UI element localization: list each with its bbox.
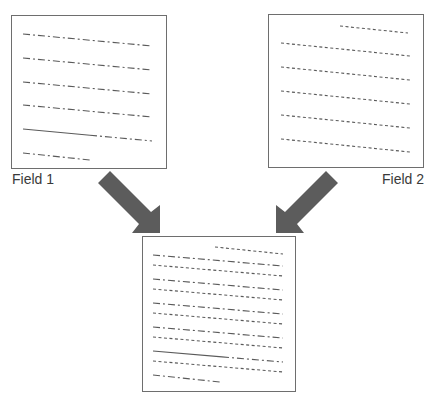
field-2-lines [281,26,410,152]
dashdot-line [153,255,283,266]
dotted-line [153,313,283,324]
arrow-field2-to-merged-icon [276,171,338,233]
dashdot-line [23,105,152,117]
dotted-line [281,67,410,80]
dotted-line [215,247,283,254]
dotted-line [281,115,410,128]
solid-line-segment [23,129,90,135]
dotted-line [281,139,410,152]
dotted-line [153,337,283,348]
dotted-line [153,289,283,300]
merged-field-lines [153,247,283,382]
arrow-field1-to-merged-icon [98,171,160,233]
dashdot-line [153,279,283,290]
dotted-line [340,26,408,33]
dashdot-line [153,375,220,382]
dashdot-line [23,82,152,94]
dashdot-line [153,303,283,314]
solid-line-segment [153,351,222,357]
dashdot-line-segment [90,135,152,141]
dashdot-line [23,34,152,46]
dashdot-line [153,327,283,338]
field-1-lines [23,34,152,160]
dashdot-line-segment [222,357,283,362]
dashdot-line [23,153,90,160]
dashdot-line [23,58,152,70]
dotted-line [281,43,410,56]
diagram-canvas [0,0,436,402]
dotted-line [153,361,283,372]
dotted-line [153,265,283,276]
dotted-line [281,91,410,104]
